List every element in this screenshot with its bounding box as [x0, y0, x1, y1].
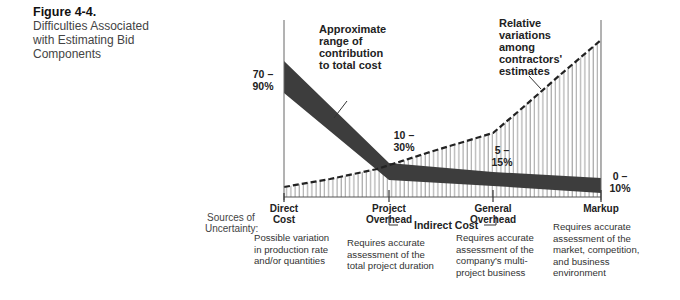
category-markup: Markup [574, 203, 628, 214]
pct-markup: 0 – 10% [603, 170, 637, 194]
note-markup: Requires accurate assessment of the mark… [553, 221, 643, 279]
pct-direct: 70 – 90% [246, 68, 280, 92]
indirect-cost-label: Indirect Cost [414, 220, 484, 231]
pct-general: 5 – 15% [485, 144, 519, 168]
band-leader [334, 101, 347, 118]
note-general-overhead: Requires accurate assessment of the comp… [456, 232, 536, 278]
band-annotation: Approximate range of contribution to tot… [319, 23, 389, 71]
category-project-overhead: Project Overhead [360, 203, 418, 225]
note-direct-cost: Possible variation in production rate an… [254, 232, 344, 267]
note-project-overhead: Requires accurate assessment of the tota… [347, 237, 442, 272]
pct-project: 10 – 30% [387, 129, 421, 153]
category-direct-cost: Direct Cost [262, 203, 306, 225]
dashed-leader [529, 76, 541, 89]
sources-of-uncertainty-label: Sources of Uncertainty: [205, 212, 257, 234]
dashed-annotation: Relative variations among contractors' e… [499, 17, 579, 77]
